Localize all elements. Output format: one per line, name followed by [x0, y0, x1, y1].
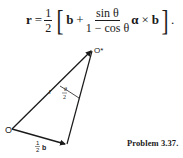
figure-caption: Problem 3.37. — [127, 138, 178, 148]
label-angle-num: θ — [64, 86, 67, 92]
label-half-num: 1 — [36, 140, 40, 146]
label-origin: O — [5, 125, 12, 135]
vector-r — [12, 51, 91, 129]
triangle-diagram: O O* r θ 2 1 2 b — [0, 0, 183, 158]
label-half-den: 2 — [36, 147, 40, 153]
label-half-b: b — [42, 144, 46, 151]
label-apex: O* — [94, 46, 103, 55]
triangle-side — [67, 51, 92, 144]
label-angle-den: 2 — [63, 94, 66, 100]
